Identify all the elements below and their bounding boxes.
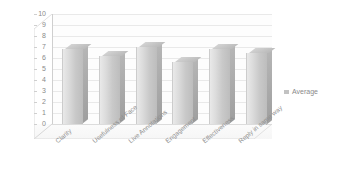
bar-front-face [136,47,157,124]
y-axis-tick [34,91,37,92]
y-axis-tick [34,80,37,81]
y-axis-tick [34,58,37,59]
bar-front-face [172,62,193,124]
y-axis-tick-label: 4 [42,76,46,84]
bar-front-face [62,49,83,124]
y-axis-tick [34,102,37,103]
x-axis-category-labels: ClarityUsefulness of FaceLive Annotation… [34,139,284,191]
y-axis-labels: 109876543210 [18,8,48,138]
y-axis-tick-label: 6 [42,54,46,62]
bar-column [209,49,229,124]
y-axis-tick [34,14,37,15]
y-axis-tick-label: 3 [42,87,46,95]
y-axis-tick-label: 10 [38,10,46,18]
y-axis-tick-label: 5 [42,65,46,73]
y-axis-tick-label: 7 [42,43,46,51]
y-axis-tick [34,69,37,70]
bar-front-face [246,53,267,125]
bar-front-face [99,56,120,124]
y-axis-tick-label: 0 [42,120,46,128]
y-axis-tick [34,25,37,26]
bar-column [62,49,82,124]
bar-column [136,47,156,124]
legend-swatch-icon [284,90,289,94]
bar-column [172,62,192,124]
legend-label-average: Average [292,88,318,95]
y-axis-tick [34,47,37,48]
bar-front-face [209,49,230,124]
bar-series-average [52,14,272,139]
y-axis-tick [34,124,37,125]
bar-chart: 109876543210 ClarityUsefulness of FaceLi… [0,0,347,191]
y-axis-tick [34,36,37,37]
y-axis-tick [34,113,37,114]
y-axis-tick-label: 2 [42,98,46,106]
bar-column [99,56,119,124]
y-axis-tick-label: 1 [42,109,46,117]
y-axis-tick-label: 8 [42,32,46,40]
y-axis-tick-label: 9 [42,21,46,29]
bar-column [246,53,266,125]
chart-legend: Average [284,88,318,95]
